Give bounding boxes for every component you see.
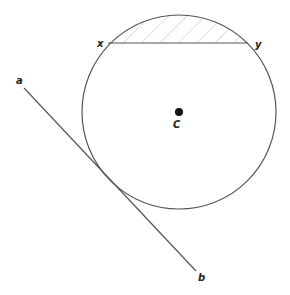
tangent-line-ab xyxy=(24,88,196,271)
label-a: a xyxy=(16,75,23,86)
label-x: x xyxy=(96,38,104,49)
label-center-c: C xyxy=(173,119,181,130)
label-b: b xyxy=(198,272,205,283)
geometry-diagram: a b x y C xyxy=(0,0,290,295)
label-y: y xyxy=(255,39,262,50)
center-point xyxy=(175,108,183,116)
